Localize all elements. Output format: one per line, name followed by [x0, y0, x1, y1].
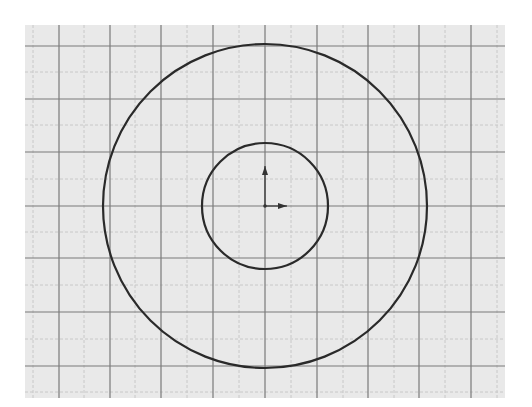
sketch-canvas[interactable] — [0, 0, 532, 407]
origin-point — [263, 204, 267, 208]
